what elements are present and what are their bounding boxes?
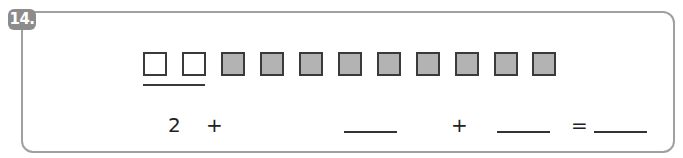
exercise-number-badge: 14.	[8, 9, 36, 30]
gray-square	[416, 52, 440, 76]
equals-sign: =	[571, 113, 588, 137]
white-square	[182, 52, 206, 76]
plus-sign: +	[206, 113, 223, 137]
plus-sign: +	[451, 113, 468, 137]
gray-square	[455, 52, 479, 76]
gray-square	[260, 52, 284, 76]
answer-blank-1[interactable]	[344, 131, 397, 133]
gray-square	[299, 52, 323, 76]
gray-square	[221, 52, 245, 76]
answer-blank-3[interactable]	[594, 131, 647, 133]
first-term: 2	[168, 113, 181, 137]
gray-square	[532, 52, 556, 76]
white-square	[143, 52, 167, 76]
group-underline	[143, 84, 205, 86]
gray-square	[494, 52, 518, 76]
answer-blank-2[interactable]	[497, 131, 550, 133]
gray-square	[338, 52, 362, 76]
gray-square	[377, 52, 401, 76]
